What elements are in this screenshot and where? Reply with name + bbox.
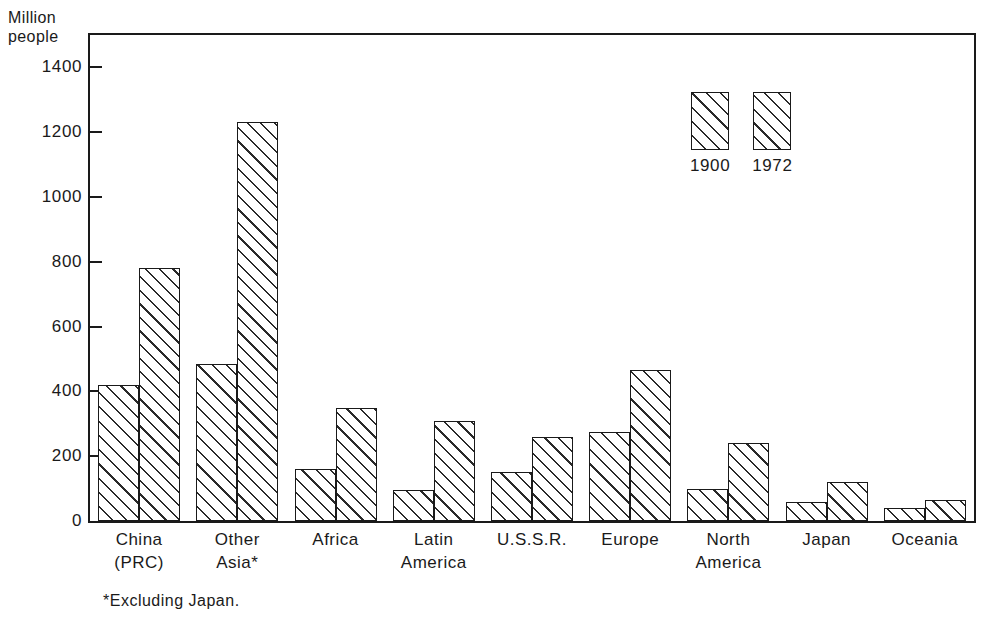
legend-item-1972: 1972 [752, 92, 792, 175]
y-axis-tick-label: 800 [8, 253, 82, 270]
bar [295, 469, 336, 521]
y-axis-tick-label: 1400 [8, 58, 82, 75]
bar [827, 482, 868, 521]
x-axis-category-label: North America [679, 528, 777, 574]
bar [589, 432, 630, 521]
footnote: *Excluding Japan. [103, 592, 240, 610]
bar [687, 489, 728, 521]
legend-label-1900: 1900 [690, 157, 730, 175]
legend-swatch-1900 [691, 92, 729, 150]
x-axis-labels: China (PRC)Other Asia*AfricaLatin Americ… [90, 528, 974, 588]
x-axis-category-label: U.S.S.R. [483, 528, 581, 551]
x-axis-category-label: China (PRC) [90, 528, 188, 574]
chart-page: Million people 0200400600800100012001400… [0, 0, 989, 622]
y-axis-tick-label: 0 [8, 512, 82, 529]
y-axis-tick-label: 1000 [8, 188, 82, 205]
bar [884, 508, 925, 521]
bar [630, 370, 671, 521]
bar [728, 443, 769, 521]
x-axis-category-label: Europe [581, 528, 679, 551]
x-axis-category-label: Latin America [385, 528, 483, 574]
bar [336, 408, 377, 521]
x-axis-category-label: Other Asia* [188, 528, 286, 574]
bar [196, 364, 237, 521]
y-axis-tick-label: 1200 [8, 123, 82, 140]
y-axis-title: Million people [8, 8, 86, 46]
bar [434, 421, 475, 521]
bar [532, 437, 573, 521]
y-axis-tick-label: 200 [8, 447, 82, 464]
x-axis-category-label: Japan [778, 528, 876, 551]
bar [925, 500, 966, 521]
x-axis-category-label: Oceania [876, 528, 974, 551]
bar [491, 472, 532, 521]
y-axis-tick-label: 400 [8, 382, 82, 399]
bars-layer [90, 35, 974, 521]
y-axis-tick-label: 600 [8, 318, 82, 335]
bar [237, 122, 278, 521]
legend: 1900 1972 [690, 92, 792, 175]
legend-swatch-1972 [753, 92, 791, 150]
bar [98, 385, 139, 521]
legend-item-1900: 1900 [690, 92, 730, 175]
legend-label-1972: 1972 [752, 157, 792, 175]
x-axis-category-label: Africa [286, 528, 384, 551]
bar [139, 268, 180, 521]
bar [786, 502, 827, 521]
bar [393, 490, 434, 521]
